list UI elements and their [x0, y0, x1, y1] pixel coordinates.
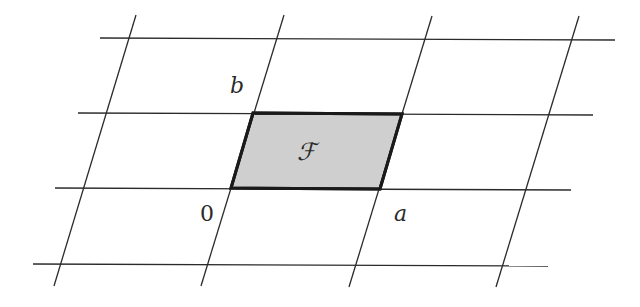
- horizontal-line-1: [100, 38, 615, 40]
- slanted-line-1: [54, 15, 136, 286]
- label-a: a: [394, 201, 407, 226]
- lattice-diagram: b 0 a ℱ: [0, 0, 640, 307]
- horizontal-line-4: [33, 264, 548, 266]
- fundamental-domain: [231, 113, 402, 189]
- slanted-line-4: [496, 16, 579, 287]
- label-origin: 0: [200, 201, 214, 226]
- label-b: b: [230, 73, 244, 98]
